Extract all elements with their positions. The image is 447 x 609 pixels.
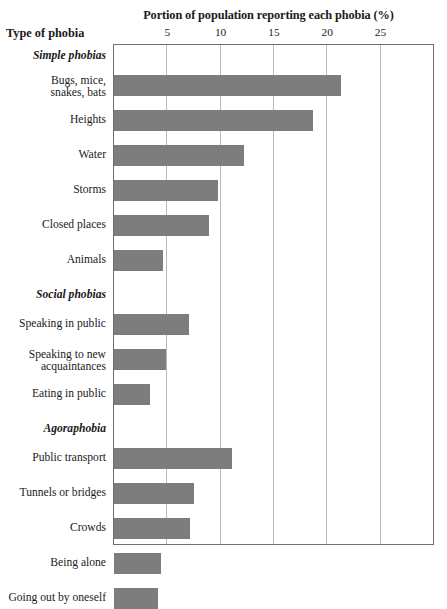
chart-bar-row: Eating in public <box>0 384 447 405</box>
category-label: Tunnels or bridges <box>0 487 106 500</box>
x-tick-15: 15 <box>259 26 289 38</box>
category-label: Water <box>0 149 106 162</box>
category-label: Speaking in public <box>0 318 106 331</box>
chart-bar-row: Speaking in public <box>0 314 447 335</box>
bar <box>114 314 189 335</box>
category-label: Going out by oneself <box>0 592 106 605</box>
chart-bar-row: Water <box>0 145 447 166</box>
group-label: Social phobias <box>0 289 106 302</box>
chart-bar-row: Crowds <box>0 518 447 539</box>
category-label: Closed places <box>0 219 106 232</box>
chart-bar-row: Being alone <box>0 553 447 574</box>
chart-group-header: Agoraphobia <box>0 419 447 440</box>
bar <box>114 518 190 539</box>
chart-bar-row: Closed places <box>0 215 447 236</box>
chart-bar-row: Animals <box>0 250 447 271</box>
category-label: Animals <box>0 254 106 267</box>
category-label: Speaking to new acquaintances <box>0 349 106 374</box>
chart-bar-row: Tunnels or bridges <box>0 483 447 504</box>
category-label: Being alone <box>0 557 106 570</box>
bar <box>114 483 194 504</box>
chart-bar-row: Bugs, mice, snakes, bats <box>0 75 447 96</box>
chart-group-header: Social phobias <box>0 285 447 306</box>
bar <box>114 588 158 609</box>
x-tick-10: 10 <box>206 26 236 38</box>
y-axis-title: Type of phobia <box>6 26 110 41</box>
category-label: Bugs, mice, snakes, bats <box>0 75 106 100</box>
bar <box>114 215 209 236</box>
category-label: Storms <box>0 184 106 197</box>
chart-bar-row: Heights <box>0 110 447 131</box>
bar <box>114 75 341 96</box>
bar <box>114 250 163 271</box>
bar <box>114 448 232 469</box>
bar <box>114 384 150 405</box>
chart-bar-row: Public transport <box>0 448 447 469</box>
chart-group-header: Simple phobias <box>0 46 447 67</box>
group-label: Agoraphobia <box>0 423 106 436</box>
chart-bar-row: Going out by oneself <box>0 588 447 609</box>
x-tick-5: 5 <box>152 26 182 38</box>
bar <box>114 110 313 131</box>
category-label: Eating in public <box>0 388 106 401</box>
category-label: Public transport <box>0 452 106 465</box>
chart-bar-row: Speaking to new acquaintances <box>0 349 447 370</box>
bar <box>114 553 161 574</box>
bar <box>114 349 166 370</box>
category-label: Crowds <box>0 522 106 535</box>
category-label: Heights <box>0 114 106 127</box>
x-tick-25: 25 <box>366 26 396 38</box>
chart-bar-row: Storms <box>0 180 447 201</box>
bar <box>114 145 244 166</box>
group-label: Simple phobias <box>0 50 106 63</box>
chart-title: Portion of population reporting each pho… <box>96 8 441 23</box>
x-tick-20: 20 <box>312 26 342 38</box>
bar <box>114 180 218 201</box>
